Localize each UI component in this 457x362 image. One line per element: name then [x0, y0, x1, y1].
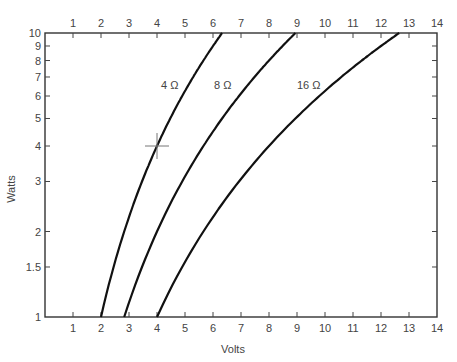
- x-tick-label: 3: [126, 322, 132, 334]
- y-tick-label: 4: [35, 140, 41, 152]
- x-tick-label-top: 10: [319, 17, 331, 29]
- plot-border: [45, 33, 437, 317]
- x-tick-label-top: 2: [98, 17, 104, 29]
- x-tick-label-top: 8: [266, 17, 272, 29]
- x-tick-label: 10: [319, 322, 331, 334]
- curve-label-8-ohm: 8 Ω: [214, 79, 231, 91]
- x-tick-label-top: 14: [431, 17, 443, 29]
- x-tick-label: 2: [98, 322, 104, 334]
- x-tick-label: 11: [347, 322, 358, 334]
- x-tick-label: 4: [154, 322, 160, 334]
- y-tick-label: 8: [35, 55, 41, 67]
- x-tick-label-top: 1: [70, 17, 76, 29]
- curve-label-4-ohm: 4 Ω: [161, 79, 178, 91]
- y-tick-label: 5: [35, 112, 41, 124]
- y-axis-title: Watts: [5, 175, 17, 203]
- x-tick-label-top: 3: [126, 17, 132, 29]
- x-tick-label: 6: [210, 322, 216, 334]
- x-tick-label: 14: [431, 322, 443, 334]
- y-tick-label: 6: [35, 90, 41, 102]
- y-tick-label: 1: [35, 311, 41, 323]
- y-tick-label: 10: [29, 27, 41, 39]
- x-tick-label-top: 12: [375, 17, 387, 29]
- x-tick-label: 8: [266, 322, 272, 334]
- curve-label-16-ohm: 16 Ω: [297, 79, 321, 91]
- y-tick-label: 3: [35, 175, 41, 187]
- x-tick-label-top: 11: [347, 17, 358, 29]
- x-tick-label-top: 5: [182, 17, 188, 29]
- curves: [101, 33, 399, 317]
- x-tick-label-top: 4: [154, 17, 160, 29]
- x-tick-label: 5: [182, 322, 188, 334]
- y-tick-label: 2: [35, 226, 41, 238]
- x-tick-label-top: 6: [210, 17, 216, 29]
- power-voltage-chart: 1234567891011121314 1234567891011121314 …: [0, 0, 457, 362]
- x-axis-title: Volts: [221, 343, 245, 355]
- x-tick-label: 9: [294, 322, 300, 334]
- plot-frame: [45, 33, 437, 317]
- x-tick-label-top: 7: [238, 17, 244, 29]
- y-axis: 11.52345678910: [26, 27, 437, 323]
- x-tick-label: 12: [375, 322, 387, 334]
- y-tick-label: 9: [35, 40, 41, 52]
- x-axis-top: 1234567891011121314: [70, 17, 443, 38]
- x-tick-label-top: 13: [403, 17, 415, 29]
- y-tick-label: 7: [35, 71, 41, 83]
- x-tick-label: 1: [70, 322, 76, 334]
- x-tick-label: 7: [238, 322, 244, 334]
- crosshair-marker: [145, 133, 169, 159]
- curve-8-ohm: [124, 33, 295, 317]
- x-tick-label: 13: [403, 322, 415, 334]
- curve-4-ohm: [101, 33, 222, 317]
- y-tick-label: 1.5: [26, 261, 41, 273]
- x-tick-label-top: 9: [294, 17, 300, 29]
